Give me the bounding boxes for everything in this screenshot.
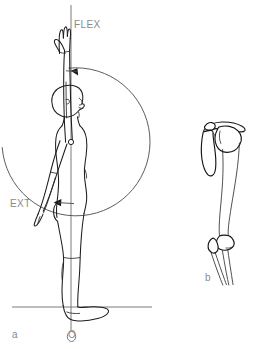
panel-b-group: b: [201, 122, 245, 285]
origin-label: O: [65, 329, 79, 341]
humerus-medial-edge: [219, 149, 223, 238]
ring-finger-outline: [67, 29, 70, 39]
anatomical-figure-svg: FLEX EXT a: [0, 0, 260, 349]
neck-front-outline: [77, 117, 79, 126]
panel-a-group: FLEX EXT a: [2, 5, 152, 342]
radius-shaft-medial: [228, 250, 233, 285]
flex-label: FLEX: [74, 19, 101, 30]
ext-label: EXT: [10, 198, 31, 209]
scapula-blade: [201, 130, 216, 175]
torso-front-outline: [80, 126, 87, 214]
humerus-lateral-edge: [228, 143, 239, 237]
ankle-crease: [67, 312, 80, 314]
knee-line: [64, 258, 80, 259]
raised-forearm-inner-line: [66, 82, 67, 118]
middle-finger-outline: [63, 27, 67, 38]
acromion-process: [204, 123, 215, 131]
humeral-head: [215, 126, 241, 152]
nose-detail: [79, 98, 82, 105]
panel-b-label: b: [205, 272, 211, 283]
extended-arm-elbow-line: [50, 172, 57, 173]
shoulder-pivot-dot: [68, 139, 73, 144]
radius-shaft-lateral: [222, 251, 228, 285]
distal-humerus-condyles: [216, 235, 234, 250]
wrist-line: [65, 51, 70, 52]
head-outline: [52, 85, 84, 117]
little-finger-outline: [70, 39, 71, 51]
figure-container: FLEX EXT a: [0, 0, 260, 349]
range-of-motion-arc: [2, 68, 150, 216]
chin-detail: [78, 112, 79, 118]
leg-front-outline: [78, 214, 84, 307]
panel-a-label: a: [12, 329, 18, 340]
raised-arm-back-edge: [64, 51, 66, 143]
